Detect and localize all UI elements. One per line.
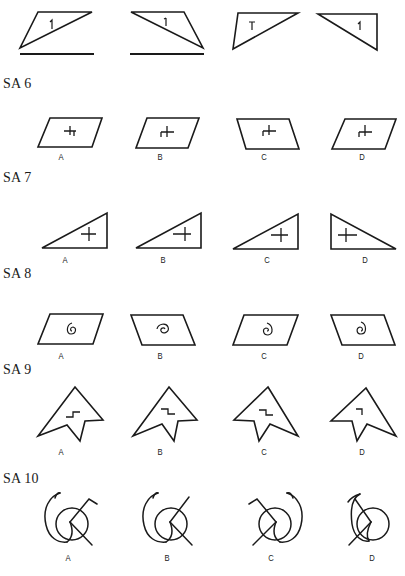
- sa10-option-a-label: A: [65, 553, 70, 563]
- sa10-option-c-figure: [249, 493, 302, 545]
- sa10-figures: [0, 0, 405, 576]
- sa10-option-b-label: B: [164, 553, 169, 563]
- sa10-option-a-figure: [45, 493, 97, 545]
- sa10-option-d-label: D: [369, 553, 375, 563]
- sa10-option-c-label: C: [268, 553, 274, 563]
- sa10-option-b-figure: [143, 493, 192, 545]
- sa10-option-d-figure: [348, 494, 389, 545]
